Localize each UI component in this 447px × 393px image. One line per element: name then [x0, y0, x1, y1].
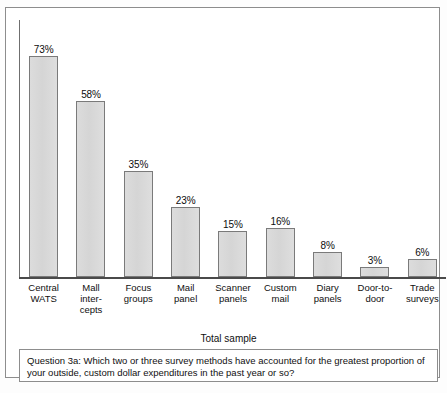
- bar-value-label: 15%: [223, 219, 243, 230]
- question-text: Question 3a: Which two or three survey m…: [27, 355, 430, 378]
- source-caption-cropped: [8, 384, 440, 392]
- bar-value-label: 16%: [270, 216, 290, 227]
- bar-rect[interactable]: [218, 231, 247, 277]
- bar-value-label: 8%: [321, 240, 335, 251]
- category-axis-labels: Central WATS Mall inter- cepts Focus gro…: [20, 282, 446, 315]
- bar-item[interactable]: 58%: [67, 20, 114, 277]
- x-axis-line: [19, 277, 446, 279]
- bar-item[interactable]: 23%: [162, 20, 209, 277]
- category-label-central-wats: Central WATS: [20, 282, 67, 315]
- bar-rect[interactable]: [76, 101, 105, 277]
- bar-value-label: 23%: [176, 195, 196, 206]
- bar-rect[interactable]: [360, 267, 389, 277]
- x-axis-title: Total sample: [11, 333, 446, 345]
- bar-rect[interactable]: [171, 207, 200, 277]
- bar-rect[interactable]: [313, 252, 342, 277]
- bar-value-label: 3%: [368, 255, 382, 266]
- bar-value-label: 58%: [81, 89, 101, 100]
- bar-item[interactable]: 6%: [399, 20, 446, 277]
- category-label-mall-intercepts: Mall inter- cepts: [67, 282, 114, 315]
- category-label-door-to-door: Door-to- door: [351, 282, 398, 315]
- bar-value-label: 6%: [415, 247, 429, 258]
- bar-item[interactable]: 16%: [257, 20, 304, 277]
- category-label-diary-panels: Diary panels: [304, 282, 351, 315]
- bar-value-label: 73%: [34, 44, 54, 55]
- category-label-focus-groups: Focus groups: [115, 282, 162, 315]
- bar-item[interactable]: 73%: [20, 20, 67, 277]
- question-callout-box: Question 3a: Which two or three survey m…: [19, 349, 438, 382]
- bar-item[interactable]: 3%: [351, 20, 398, 277]
- bar-item[interactable]: 8%: [304, 20, 351, 277]
- bar-chart-plot-area: 73% 58% 35% 23% 15% 16%: [19, 20, 446, 278]
- bar-value-label: 35%: [128, 159, 148, 170]
- bar-item[interactable]: 35%: [115, 20, 162, 277]
- category-label-mail-panel: Mail panel: [162, 282, 209, 315]
- category-label-scanner-panels: Scanner panels: [209, 282, 256, 315]
- bar-rect[interactable]: [124, 171, 153, 277]
- category-label-trade-surveys: Trade surveys: [399, 282, 446, 315]
- category-label-custom-mail: Custom mail: [257, 282, 304, 315]
- bar-item[interactable]: 15%: [209, 20, 256, 277]
- bar-rect[interactable]: [266, 228, 295, 277]
- bar-rect[interactable]: [408, 259, 437, 277]
- figure-frame: 73% 58% 35% 23% 15% 16%: [5, 7, 440, 378]
- bar-rect[interactable]: [29, 56, 58, 277]
- bar-series: 73% 58% 35% 23% 15% 16%: [20, 20, 446, 277]
